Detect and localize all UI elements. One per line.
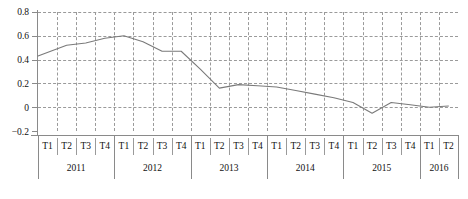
quarter-label: T1 xyxy=(191,136,210,157)
series-line xyxy=(38,36,448,113)
year-label: 2015 xyxy=(343,157,419,179)
quarter-label: T4 xyxy=(324,136,343,157)
quarter-label: T4 xyxy=(401,136,420,157)
y-axis-labels: 0.8 0.6 0.4 0.2 0 −0.2 xyxy=(0,0,36,199)
quarter-label: T1 xyxy=(343,136,362,157)
quarter-label: T3 xyxy=(305,136,324,157)
year-separator xyxy=(458,136,459,179)
quarter-separator xyxy=(172,138,173,155)
y-tick-label: −0.2 xyxy=(12,128,29,138)
quarter-separator xyxy=(382,138,383,155)
y-tick-label: 0 xyxy=(24,104,29,114)
quarter-separator xyxy=(95,138,96,155)
year-label: 2016 xyxy=(420,157,458,179)
quarter-separator xyxy=(133,138,134,155)
year-label: 2011 xyxy=(38,157,114,179)
quarter-separator xyxy=(286,138,287,155)
quarter-label: T1 xyxy=(420,136,439,157)
year-separator xyxy=(191,136,192,179)
quarter-separator xyxy=(439,138,440,155)
quarter-separator xyxy=(229,138,230,155)
quarter-separator xyxy=(305,138,306,155)
quarter-separator xyxy=(401,138,402,155)
quarter-separator xyxy=(57,138,58,155)
plot-area xyxy=(38,12,458,131)
quarter-label: T2 xyxy=(439,136,458,157)
quarter-label: T3 xyxy=(382,136,401,157)
quarter-label: T1 xyxy=(114,136,133,157)
quarter-label: T3 xyxy=(153,136,172,157)
quarter-separator xyxy=(210,138,211,155)
quarter-label: T2 xyxy=(286,136,305,157)
y-tick-label: 0.4 xyxy=(17,56,29,66)
quarter-label: T3 xyxy=(229,136,248,157)
quarter-label: T1 xyxy=(38,136,57,157)
series-line-layer xyxy=(38,12,458,131)
year-label-band: 201120122013201420152016 xyxy=(38,157,458,179)
quarter-separator xyxy=(363,138,364,155)
quarter-label-band: T1T2T3T4T1T2T3T4T1T2T3T4T1T2T3T4T1T2T3T4… xyxy=(38,136,458,157)
quarter-separator xyxy=(153,138,154,155)
quarter-separator xyxy=(324,138,325,155)
quarter-label: T4 xyxy=(95,136,114,157)
quarter-label: T2 xyxy=(133,136,152,157)
year-separator xyxy=(114,136,115,179)
y-tick-label: 0.8 xyxy=(17,8,29,18)
year-separator xyxy=(267,136,268,179)
year-label: 2012 xyxy=(114,157,190,179)
year-label: 2014 xyxy=(267,157,343,179)
line-chart: 0.8 0.6 0.4 0.2 0 −0.2 T1T2T3T4T1T2T3T4T… xyxy=(0,0,468,199)
year-separator xyxy=(420,136,421,179)
quarter-label: T3 xyxy=(76,136,95,157)
quarter-label: T2 xyxy=(363,136,382,157)
quarter-separator xyxy=(76,138,77,155)
year-separator xyxy=(343,136,344,179)
quarter-label: T4 xyxy=(172,136,191,157)
year-separator xyxy=(38,136,39,179)
quarter-label: T1 xyxy=(267,136,286,157)
quarter-label: T2 xyxy=(57,136,76,157)
quarter-label: T4 xyxy=(248,136,267,157)
y-tick-label: 0.2 xyxy=(17,80,29,90)
y-tick-label: 0.6 xyxy=(17,32,29,42)
quarter-label: T2 xyxy=(210,136,229,157)
quarter-separator xyxy=(248,138,249,155)
year-label: 2013 xyxy=(191,157,267,179)
